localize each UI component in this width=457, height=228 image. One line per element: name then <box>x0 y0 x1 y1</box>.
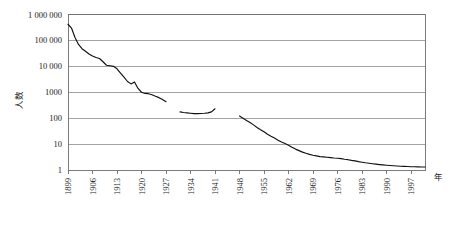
y-axis-tick-label: 100 <box>49 113 62 123</box>
y-axis-tick-labels: 110100100010 000100 0001 000 000 <box>28 10 62 176</box>
chart-container: 110100100010 000100 0001 000 000 1899190… <box>0 0 457 228</box>
line-chart: 110100100010 000100 0001 000 000 1899190… <box>0 0 457 228</box>
y-axis-tick-label: 100 000 <box>34 35 62 45</box>
x-axis-tick-label: 1983 <box>357 178 367 195</box>
x-axis-tick-label: 1934 <box>186 177 196 195</box>
x-axis-tick-label: 1955 <box>259 178 269 195</box>
x-axis-tick-label: 1962 <box>284 178 294 195</box>
series-line-segment-3 <box>240 116 426 167</box>
y-axis-tick-label: 1000 <box>45 87 62 97</box>
series-line-segment-1 <box>68 24 166 101</box>
x-axis-tick-label: 1927 <box>161 178 171 195</box>
x-axis-tick-label: 1976 <box>333 178 343 195</box>
x-axis-tick-label: 1913 <box>112 178 122 195</box>
x-axis-title: 年 <box>434 172 443 182</box>
gridlines-group <box>68 15 425 145</box>
y-axis-title: 人数 <box>14 91 24 109</box>
y-axis-tick-label: 1 000 000 <box>28 10 62 20</box>
series-line-segment-2 <box>180 109 215 114</box>
x-axis-tick-label: 1941 <box>210 178 220 195</box>
x-axis-tick-label: 1997 <box>406 178 416 195</box>
y-axis-tick-label: 10 000 <box>39 61 62 71</box>
x-axis-tick-label: 1990 <box>382 178 392 195</box>
x-axis-tick-marks <box>68 170 411 174</box>
x-axis-tick-label: 1920 <box>137 178 147 195</box>
series-group <box>68 24 425 167</box>
x-axis-tick-label: 1899 <box>63 178 73 195</box>
x-axis-tick-label: 1948 <box>235 178 245 195</box>
x-axis-tick-label: 1969 <box>308 178 318 195</box>
y-axis-tick-label: 10 <box>54 139 63 149</box>
x-axis-tick-label: 1906 <box>88 178 98 195</box>
x-axis-tick-labels: 1899190619131920192719341941194819551962… <box>63 177 416 195</box>
y-axis-tick-label: 1 <box>58 165 62 175</box>
